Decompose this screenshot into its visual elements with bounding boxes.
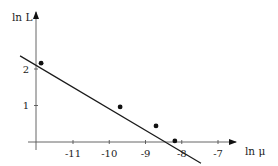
data-point <box>118 105 123 110</box>
y-tick-label: 2 <box>23 64 29 75</box>
data-point <box>39 61 44 66</box>
data-points <box>39 61 178 144</box>
x-ticks: -11-10-9-8-7 <box>65 140 223 159</box>
x-tick-label: -7 <box>213 148 223 159</box>
data-point <box>154 124 159 129</box>
x-tick-label: -10 <box>101 148 117 159</box>
x-tick-label: -9 <box>141 148 151 159</box>
x-tick-label: -11 <box>65 148 81 159</box>
y-tick-label: 1 <box>23 100 29 111</box>
x-axis-label: ln μ <box>245 145 265 157</box>
chart: -11-10-9-8-7 12 ln L ln μ <box>0 0 278 166</box>
y-axis-label: ln L <box>12 11 32 23</box>
data-point <box>172 139 177 144</box>
